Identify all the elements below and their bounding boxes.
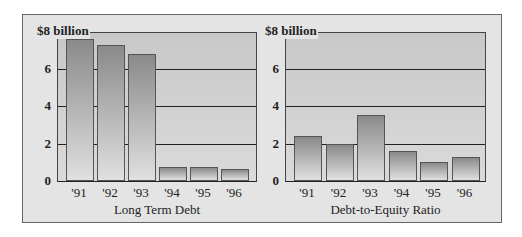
- y-tick-label: 0: [37, 173, 51, 189]
- x-axis-title: Long Term Debt: [57, 202, 257, 218]
- x-tick-label: '91: [292, 185, 322, 201]
- x-tick-label: '94: [387, 185, 417, 201]
- x-tick-label: '94: [157, 185, 187, 201]
- chart-debt-to-equity: '91'92'93'94'95'960246$8 billionDebt-to-…: [263, 15, 503, 222]
- x-tick-label: '95: [418, 185, 448, 201]
- bar-92: [97, 45, 125, 181]
- x-tick-label: '92: [95, 185, 125, 201]
- plot-area: [57, 32, 257, 182]
- plot-area: [285, 32, 486, 182]
- bar-91: [294, 136, 322, 181]
- x-tick-label: '91: [64, 185, 94, 201]
- chart-frame: '91'92'93'94'95'960246$8 billionLong Ter…: [22, 14, 502, 223]
- bar-95: [420, 162, 448, 181]
- x-tick-label: '92: [324, 185, 354, 201]
- gridline: [286, 106, 485, 107]
- bar-93: [357, 115, 385, 181]
- y-tick-label: 6: [265, 61, 279, 77]
- bar-91: [66, 39, 94, 182]
- x-tick-label: '93: [355, 185, 385, 201]
- gridline: [286, 69, 485, 70]
- bar-96: [221, 169, 249, 181]
- y-tick-label: 2: [37, 136, 51, 152]
- bar-94: [159, 167, 187, 181]
- bar-94: [389, 151, 417, 181]
- x-axis-title: Debt-to-Equity Ratio: [285, 202, 486, 218]
- x-tick-label: '93: [126, 185, 156, 201]
- y-tick-label: 6: [37, 61, 51, 77]
- bar-93: [128, 54, 156, 182]
- y-tick-label: 0: [265, 173, 279, 189]
- y-max-label: $8 billion: [265, 23, 318, 39]
- x-tick-label: '96: [219, 185, 249, 201]
- bar-95: [190, 167, 218, 181]
- y-tick-label: 2: [265, 136, 279, 152]
- y-tick-label: 4: [265, 98, 279, 114]
- y-tick-label: 4: [37, 98, 51, 114]
- x-tick-label: '96: [450, 185, 480, 201]
- bar-96: [452, 157, 480, 181]
- chart-long-term-debt: '91'92'93'94'95'960246$8 billionLong Ter…: [23, 15, 263, 222]
- x-tick-label: '95: [188, 185, 218, 201]
- bar-92: [326, 144, 354, 182]
- y-max-label: $8 billion: [37, 23, 90, 39]
